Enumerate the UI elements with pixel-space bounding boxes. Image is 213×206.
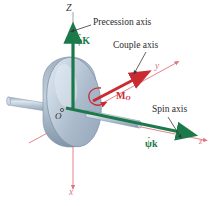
vector-label-precession: · φK [76,36,90,46]
gyroscope-diagram: Z Precession axis · φK Couple axis y MO … [0,0,213,206]
moment-subscript: O [125,94,130,102]
precession-axis-leader-line [73,25,91,31]
axis-label-z: z [199,137,202,146]
axis-label-x: x [69,188,73,198]
annotation-couple-axis: Couple axis [113,41,158,51]
couple-axis-leader-line [135,52,146,72]
annotation-spin-axis: Spin axis [152,105,187,115]
spin-unit: k [152,138,158,149]
diagram-canvas [0,0,213,206]
precession-dot-accent: · [79,31,82,39]
vector-label-spin: · ψk [145,139,157,149]
axis-label-big-z: Z [66,3,72,13]
annotation-precession-axis: Precession axis [93,18,151,28]
precession-unit: K [82,35,90,46]
vector-label-couple-moment: MO [116,91,131,102]
spin-dot-accent: · [148,134,151,142]
axis-label-y: y [155,62,159,72]
origin-label: O [55,112,62,121]
